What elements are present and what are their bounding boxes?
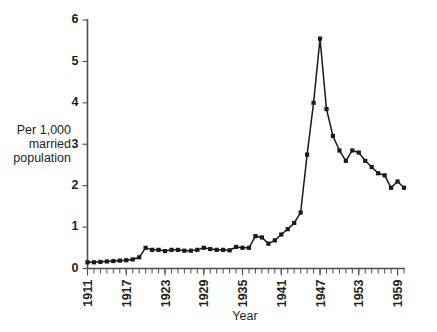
data-point: [260, 235, 264, 239]
data-point: [169, 248, 173, 252]
y-tick-label: 0: [72, 261, 79, 275]
data-point: [176, 248, 180, 252]
data-point: [240, 246, 244, 250]
data-point: [221, 248, 225, 252]
y-tick-label: 6: [72, 12, 79, 26]
y-tick-label: 1: [72, 219, 79, 233]
data-point: [318, 37, 322, 41]
data-point: [311, 101, 315, 105]
data-point: [131, 257, 135, 261]
data-point: [247, 246, 251, 250]
data-point: [266, 242, 270, 246]
data-point: [124, 258, 128, 262]
data-point: [292, 221, 296, 225]
data-point: [253, 234, 257, 238]
series-markers: [85, 37, 406, 265]
x-tick-label: 1935: [236, 279, 250, 307]
data-point: [111, 259, 115, 263]
data-point: [402, 186, 406, 190]
y-axis-title-line-2: married: [29, 137, 71, 151]
data-point: [350, 148, 354, 152]
x-tick-label: 1923: [159, 279, 173, 307]
data-point: [344, 159, 348, 163]
data-point: [305, 153, 309, 157]
x-tick-label: 1959: [391, 279, 405, 307]
line-chart: 0123456 19111917192319291935194119471953…: [0, 0, 437, 332]
data-point: [286, 227, 290, 231]
x-axis-tick-labels: 191119171923192919351941194719531959: [81, 279, 405, 307]
data-point: [273, 238, 277, 242]
data-point: [395, 179, 399, 183]
y-tick-label: 5: [72, 54, 79, 68]
data-point: [189, 249, 193, 253]
data-point: [215, 248, 219, 252]
data-point: [182, 249, 186, 253]
data-point: [357, 150, 361, 154]
data-point: [150, 248, 154, 252]
data-point: [118, 259, 122, 263]
data-point: [105, 259, 109, 263]
y-tick-label: 4: [72, 95, 79, 109]
data-point: [92, 260, 96, 264]
data-point: [370, 165, 374, 169]
data-point: [195, 248, 199, 252]
data-point: [208, 247, 212, 251]
data-point: [163, 249, 167, 253]
data-point: [234, 245, 238, 249]
x-tick-label: 1953: [352, 279, 366, 307]
x-axis-title: Year: [232, 309, 257, 323]
data-point: [156, 248, 160, 252]
y-axis-title-line-3: population: [13, 151, 71, 165]
data-point: [389, 186, 393, 190]
y-axis-tick-labels: 0123456: [72, 12, 79, 275]
data-point: [337, 148, 341, 152]
series-line-divorce-rate: [88, 39, 405, 263]
x-tick-label: 1911: [81, 279, 95, 306]
y-axis-title-line-1: Per 1,000: [17, 123, 71, 137]
x-tick-label: 1917: [120, 279, 134, 307]
x-tick-label: 1941: [275, 279, 289, 307]
y-tick-label: 2: [72, 178, 79, 192]
data-point: [144, 246, 148, 250]
data-point: [279, 232, 283, 236]
data-point: [376, 171, 380, 175]
data-point: [202, 246, 206, 250]
data-point: [383, 173, 387, 177]
y-tick-label: 3: [72, 137, 79, 151]
data-point: [98, 260, 102, 264]
data-point: [331, 134, 335, 138]
x-tick-label: 1947: [314, 279, 328, 307]
data-point: [324, 107, 328, 111]
x-tick-label: 1929: [197, 279, 211, 307]
data-point: [299, 210, 303, 214]
data-point: [228, 248, 232, 252]
data-point: [363, 159, 367, 163]
data-point: [137, 255, 141, 259]
y-axis-title: Per 1,000 married population: [13, 123, 71, 165]
data-point: [85, 260, 89, 264]
chart-container: 0123456 19111917192319291935194119471953…: [0, 0, 437, 332]
